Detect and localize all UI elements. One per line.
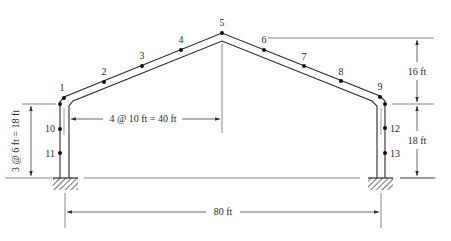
node-13-dot [383,151,387,155]
node-8-dot [339,79,343,83]
dimension-left-height [22,104,56,176]
dimension-total-span-label: 80 ft [214,206,233,217]
node-5-dot [220,31,224,35]
frame-outer-line [60,33,385,178]
node-label-5: 5 [220,17,225,28]
gable-frame-diagram: 1 2 3 4 5 6 7 8 9 10 11 12 13 3 @ 6 ft =… [0,0,451,241]
node-label-4: 4 [179,34,184,45]
node-9b-dot [383,102,387,106]
frame-members [60,33,385,178]
node-6-dot [262,48,266,52]
node-1b-dot [58,102,62,106]
dimension-left-height-label: 3 @ 6 ft = 18 ft [10,110,21,172]
node-2-dot [102,80,106,84]
node-12-dot [383,126,387,130]
dimension-right-height-label: 18 ft [408,135,427,146]
node-9-dot [378,95,382,99]
node-1-dot [62,96,66,100]
node-label-10: 10 [45,123,55,134]
frame-inner-line [69,41,377,178]
node-label-3: 3 [140,50,145,61]
node-label-11: 11 [45,148,55,159]
node-points [58,31,387,155]
node-label-2: 2 [102,66,107,77]
node-11-dot [58,151,62,155]
dimension-half-span-label: 4 @ 10 ft = 40 ft [109,113,176,124]
node-label-1: 1 [60,82,65,93]
node-4-dot [179,48,183,52]
right-fixed-support [368,178,393,190]
node-label-13: 13 [390,148,400,159]
node-label-8: 8 [339,66,344,77]
dimension-rise-label: 16 ft [408,66,427,77]
node-3-dot [140,64,144,68]
dimension-right [268,38,434,178]
node-7-dot [302,64,306,68]
node-label-6: 6 [262,34,267,45]
node-10-dot [58,127,62,131]
node-label-9: 9 [378,81,383,92]
left-fixed-support [53,178,78,190]
node-label-12: 12 [390,123,400,134]
node-label-7: 7 [302,51,307,62]
